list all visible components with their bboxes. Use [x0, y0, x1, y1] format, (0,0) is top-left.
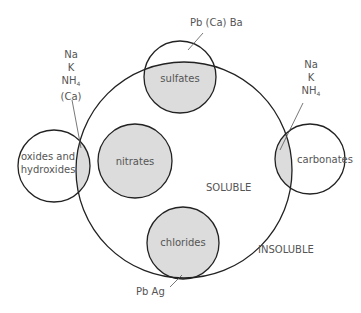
chlorides-exceptions-label: Pb Ag [136, 285, 165, 298]
solubility-diagram: Pb (Ca) Ba Na K NH4 (Ca) Na K NH4 sulfat… [0, 0, 361, 313]
ion-k: K [56, 61, 86, 74]
carbonates-exceptions-label: Na K NH4 [296, 58, 326, 100]
sulfates-label: sulfates [156, 72, 204, 85]
ion-k: K [296, 71, 326, 84]
ion-ca: (Ca) [56, 90, 86, 103]
nitrates-label: nitrates [111, 155, 159, 168]
oxides-label: oxides and hydroxides [20, 150, 76, 176]
ion-nh4: NH4 [56, 74, 86, 90]
oxides-exceptions-label: Na K NH4 (Ca) [56, 48, 86, 103]
oxides-pointer [72, 100, 81, 148]
ion-nh4: NH4 [296, 84, 326, 100]
insoluble-label: INSOLUBLE [258, 243, 314, 256]
ion-na: Na [56, 48, 86, 61]
chlorides-label: chlorides [155, 236, 211, 249]
ion-na: Na [296, 58, 326, 71]
soluble-label: SOLUBLE [206, 181, 251, 194]
carbonates-label: carbonates [290, 153, 360, 166]
sulfates-exceptions-label: Pb (Ca) Ba [190, 16, 243, 29]
